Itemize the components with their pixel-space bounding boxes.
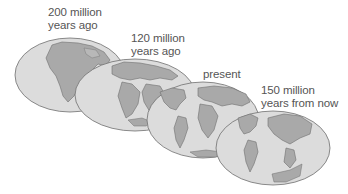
label-line-1: 200 million xyxy=(48,6,102,19)
label-present: present xyxy=(203,68,241,81)
label-150-million-years-from-now: 150 million years from now xyxy=(261,84,338,110)
globe-150-million-years-from-now xyxy=(216,111,330,185)
label-200-million-years-ago: 200 million years ago xyxy=(48,6,102,32)
label-line-2: years ago xyxy=(131,45,185,58)
label-line-2: years ago xyxy=(48,19,102,32)
label-line-1: 150 million xyxy=(261,84,338,97)
label-line-1: 120 million xyxy=(131,32,185,45)
continental-drift-diagram: 200 million years ago 120 million years … xyxy=(0,0,348,194)
label-line-2: years from now xyxy=(261,97,338,110)
label-line-1: present xyxy=(203,68,241,81)
label-120-million-years-ago: 120 million years ago xyxy=(131,32,185,58)
